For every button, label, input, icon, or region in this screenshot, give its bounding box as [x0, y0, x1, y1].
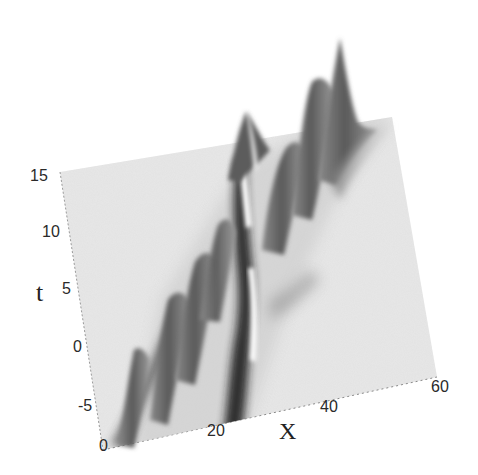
x-tick-40: 40: [320, 399, 338, 415]
y-tick-neg5: -5: [78, 398, 92, 414]
x-axis-label: X: [279, 419, 296, 443]
y-axis-label: t: [36, 280, 43, 306]
x-tick-20: 20: [207, 423, 225, 439]
y-tick-10: 10: [42, 224, 60, 240]
surface-plot: [0, 0, 478, 475]
y-tick-15: 15: [30, 168, 48, 184]
y-tick-0: 0: [73, 339, 82, 355]
x-tick-0: 0: [99, 438, 108, 454]
y-tick-5: 5: [62, 281, 71, 297]
x-tick-60: 60: [431, 379, 449, 395]
